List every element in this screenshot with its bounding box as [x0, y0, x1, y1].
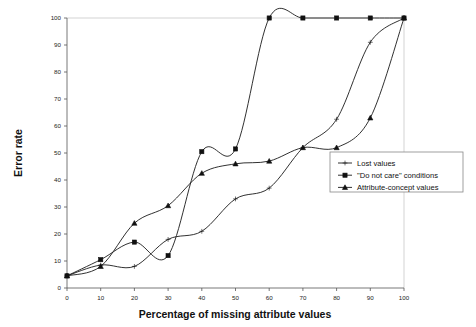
series-2 [65, 8, 406, 278]
x-tick-label: 50 [232, 294, 239, 301]
legend-item-label: Lost values [357, 159, 396, 168]
data-point-marker-triangle [368, 115, 373, 120]
y-tick-label: 40 [54, 176, 61, 183]
y-tick-label: 10 [54, 257, 61, 264]
x-axis-label: Percentage of missing attribute values [139, 308, 332, 320]
chart-legend: Lost values"Do not care" conditionsAttri… [330, 152, 463, 192]
data-point-marker-square [166, 254, 170, 258]
x-tick-label: 90 [367, 294, 374, 301]
y-tick-label: 0 [58, 284, 62, 291]
data-point-marker-square [200, 150, 204, 154]
legend-item-label: "Do not care" conditions [357, 171, 438, 180]
y-tick-label: 60 [54, 122, 61, 129]
data-point-marker-triangle [334, 145, 339, 150]
x-tick-label: 30 [165, 294, 172, 301]
legend-item-label: Attribute-concept values [357, 183, 439, 192]
y-axis-ticks: 0102030405060708090100 [51, 14, 67, 291]
x-tick-label: 100 [399, 294, 410, 301]
data-point-marker-square [132, 240, 136, 244]
chart-figure: 0102030405060708090100 01020304050607080… [0, 0, 476, 327]
series-line-path [67, 8, 404, 276]
y-tick-label: 80 [54, 68, 61, 75]
data-point-marker-square [99, 258, 103, 262]
y-tick-label: 70 [54, 95, 61, 102]
y-tick-label: 100 [51, 14, 62, 21]
data-point-marker-square [368, 16, 372, 20]
x-tick-label: 80 [333, 294, 340, 301]
data-series-layer [64, 8, 406, 278]
data-point-marker-square [301, 16, 305, 20]
error-rate-line-chart: 0102030405060708090100 01020304050607080… [0, 0, 476, 327]
x-axis-ticks: 0102030405060708090100 [65, 288, 409, 301]
x-tick-label: 70 [299, 294, 306, 301]
data-point-marker-square [233, 147, 237, 151]
y-tick-label: 20 [54, 230, 61, 237]
data-point-marker-square [335, 16, 339, 20]
data-point-marker-square [343, 173, 347, 177]
y-tick-label: 30 [54, 203, 61, 210]
x-tick-label: 0 [65, 294, 69, 301]
x-tick-label: 20 [131, 294, 138, 301]
y-tick-label: 90 [54, 41, 61, 48]
data-point-marker-triangle [199, 171, 204, 176]
x-tick-label: 40 [198, 294, 205, 301]
data-point-marker-square [267, 16, 271, 20]
x-tick-label: 60 [266, 294, 273, 301]
x-tick-label: 10 [97, 294, 104, 301]
y-axis-label: Error rate [12, 129, 24, 177]
y-tick-label: 50 [54, 149, 61, 156]
